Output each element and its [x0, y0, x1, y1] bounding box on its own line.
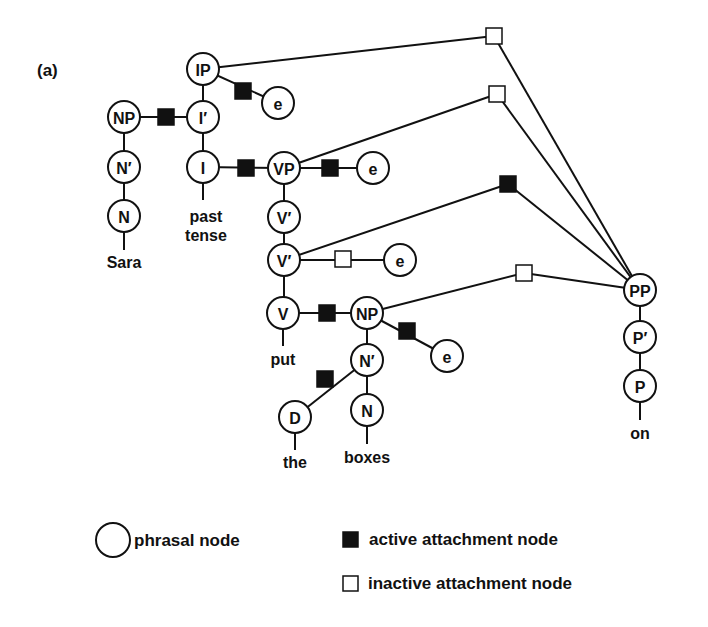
legend: phrasal node active attachment node inac…	[96, 523, 572, 593]
phrasal-node-e3: e	[384, 244, 416, 276]
node-label: e	[369, 161, 378, 178]
active-attachment-node	[399, 323, 415, 339]
active-attachment-node	[158, 109, 174, 125]
phrasal-node-vbar2: V′	[268, 244, 300, 276]
active-attachment-node	[238, 160, 254, 176]
node-label: e	[274, 96, 283, 113]
node-label: V′	[277, 210, 292, 227]
phrasal-node-vbar1: V′	[268, 201, 300, 233]
phrasal-node-d: D	[279, 401, 311, 433]
node-label: D	[289, 410, 301, 427]
phrasal-node-e2: e	[357, 152, 389, 184]
node-label: N′	[359, 353, 375, 370]
node-label: PP	[629, 283, 651, 300]
active-attachment-node	[500, 176, 516, 192]
phrasal-node-vp: VP	[268, 152, 300, 184]
legend-phrasal-label: phrasal node	[134, 531, 240, 550]
legend-inactive-label: inactive attachment node	[368, 574, 572, 593]
node-label: N	[361, 403, 373, 420]
inactive-attachment-node	[516, 265, 532, 281]
node-label: I	[201, 160, 205, 177]
node-label: V′	[277, 253, 292, 270]
phrasal-node-np1: NP	[108, 101, 140, 133]
phrasal-node-np2: NP	[351, 297, 383, 329]
active-attachment-node	[322, 160, 338, 176]
phrasal-node-v: V	[267, 297, 299, 329]
node-label: N′	[116, 160, 132, 177]
node-label: IP	[195, 62, 210, 79]
terminal-word: past	[190, 208, 224, 225]
terminal-word: boxes	[344, 449, 390, 466]
phrasal-node-ibar: I′	[187, 101, 219, 133]
terminal-word: Sara	[107, 254, 142, 271]
parse-tree-diagram: (a) IPI′INPN′NeVPeV′V′eVNPeN′DNPPP′P Sar	[0, 0, 708, 627]
node-label: I′	[199, 110, 207, 127]
node-label: NP	[356, 306, 379, 323]
panel-label: (a)	[37, 61, 58, 80]
node-label: P	[635, 379, 646, 396]
node-label: NP	[113, 110, 136, 127]
legend-inactive-icon	[343, 576, 358, 591]
phrasal-node-pbar: P′	[624, 321, 656, 353]
active-attachment-node	[317, 371, 333, 387]
legend-active-icon	[343, 532, 358, 547]
phrasal-node-ip: IP	[187, 53, 219, 85]
node-label: e	[443, 349, 452, 366]
terminal-word: tense	[185, 227, 227, 244]
inactive-attachment-node	[335, 251, 351, 267]
terminal-word: put	[271, 351, 297, 368]
node-label: V	[278, 306, 289, 323]
node-label: N	[118, 209, 130, 226]
legend-active-label: active attachment node	[369, 530, 558, 549]
phrasal-node-i: I	[187, 151, 219, 183]
phrasal-node-e4: e	[431, 340, 463, 372]
terminal-word: on	[630, 425, 650, 442]
node-label: P′	[633, 330, 648, 347]
terminal-words: Sarapasttenseputtheboxeson	[107, 208, 650, 471]
legend-phrasal-icon	[96, 523, 130, 557]
phrasal-node-n2: N	[351, 394, 383, 426]
active-attachment-node	[235, 83, 251, 99]
terminal-word: the	[283, 454, 307, 471]
phrasal-node-n1: N	[108, 200, 140, 232]
node-label: e	[396, 253, 405, 270]
phrasal-node-p: P	[624, 370, 656, 402]
phrasal-node-nbar2: N′	[351, 344, 383, 376]
phrasal-node-e1: e	[262, 87, 294, 119]
phrasal-node-nbar1: N′	[108, 151, 140, 183]
phrasal-node-pp: PP	[624, 274, 656, 306]
node-label: VP	[273, 161, 295, 178]
active-attachment-node	[319, 305, 335, 321]
inactive-attachment-node	[486, 28, 502, 44]
inactive-attachment-node	[489, 86, 505, 102]
